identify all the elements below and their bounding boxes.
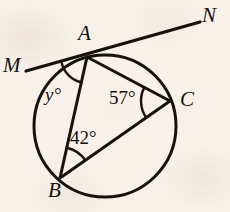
point-label-n: N — [202, 5, 216, 26]
point-label-a: A — [78, 23, 91, 44]
chord-ab — [60, 57, 87, 178]
main-circle — [34, 55, 176, 197]
angle-arc-42-at-b — [67, 148, 86, 160]
point-label-m: M — [3, 55, 21, 76]
tangent-line-mn — [26, 22, 200, 71]
point-label-b: B — [48, 180, 61, 201]
angle-label-42: 42° — [70, 128, 97, 147]
geometry-figure: A B C M N y° 57° 42° — [0, 0, 230, 212]
point-label-c: C — [180, 89, 194, 110]
angle-arc-y-at-a — [62, 63, 82, 83]
angle-label-y: y° — [45, 85, 61, 104]
angle-label-57: 57° — [109, 88, 136, 107]
angle-arc-57-at-c — [141, 87, 146, 117]
